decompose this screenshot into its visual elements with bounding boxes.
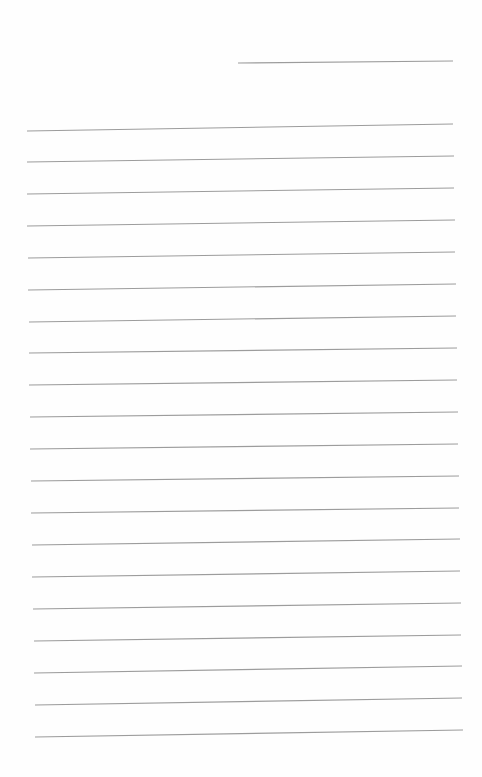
ruled-line xyxy=(29,316,456,322)
ruled-line xyxy=(33,603,461,609)
ruled-lines-group xyxy=(27,61,463,737)
ruled-line xyxy=(27,220,455,226)
ruled-line xyxy=(30,412,458,417)
ruled-line xyxy=(27,124,453,131)
ruled-line xyxy=(27,156,454,162)
ruled-line xyxy=(32,571,460,577)
header-line xyxy=(238,61,453,63)
ruled-line xyxy=(28,284,456,290)
ruled-line xyxy=(28,252,455,258)
lined-paper-page xyxy=(0,0,482,777)
ruled-line xyxy=(30,444,458,449)
ruled-line xyxy=(31,476,459,481)
ruled-line xyxy=(34,666,462,673)
ruled-line xyxy=(31,508,459,513)
ruled-line xyxy=(35,698,462,705)
ruled-line xyxy=(32,539,460,545)
ruled-line xyxy=(29,348,457,353)
ruled-line xyxy=(29,380,457,385)
ruled-line xyxy=(35,730,463,737)
ruled-lines-canvas xyxy=(0,0,482,777)
ruled-line xyxy=(34,635,461,641)
ruled-line xyxy=(27,188,454,194)
